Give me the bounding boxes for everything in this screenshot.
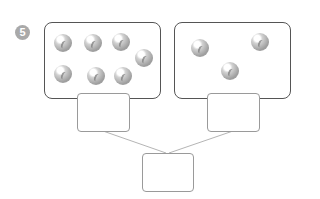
- right-answer-box[interactable]: [207, 93, 260, 132]
- left-answer-box[interactable]: [77, 93, 130, 132]
- marble-icon: [54, 34, 72, 52]
- marble-icon: [87, 67, 105, 85]
- marble-icon: [112, 33, 130, 51]
- marble-icon: [251, 33, 269, 51]
- marble-icon: [54, 65, 72, 83]
- marble-icon: [191, 39, 209, 57]
- right-marble-group: [174, 22, 291, 99]
- marble-icon: [114, 67, 132, 85]
- marble-icon: [84, 34, 102, 52]
- total-answer-box[interactable]: [142, 153, 194, 192]
- marble-icon: [221, 62, 239, 80]
- left-marble-group: [44, 22, 161, 99]
- marble-icon: [135, 49, 153, 67]
